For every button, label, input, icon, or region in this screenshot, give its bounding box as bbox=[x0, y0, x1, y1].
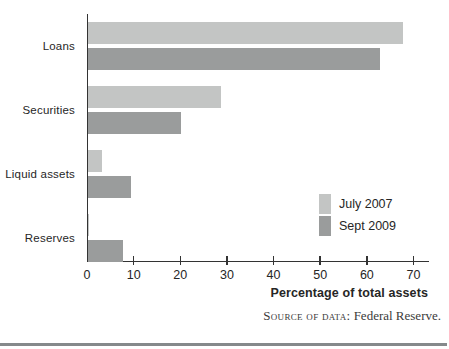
legend-item-sept-2009: Sept 2009 bbox=[319, 216, 396, 236]
bar-sept-2009-loans bbox=[88, 48, 380, 70]
x-tick-label-50: 50 bbox=[305, 268, 335, 282]
category-label-liquid-assets: Liquid assets bbox=[0, 166, 75, 182]
x-tick-mark-20 bbox=[180, 256, 182, 265]
legend-swatch-july-2007 bbox=[319, 194, 331, 214]
x-tick-mark-60 bbox=[366, 256, 368, 265]
legend: July 2007 Sept 2009 bbox=[319, 194, 396, 236]
x-tick-label-70: 70 bbox=[399, 268, 429, 282]
legend-swatch-sept-2009 bbox=[319, 216, 331, 236]
bar-sept-2009-liquid-assets bbox=[88, 176, 131, 198]
bar-july-2007-liquid-assets bbox=[88, 150, 102, 172]
x-tick-label-60: 60 bbox=[352, 268, 382, 282]
source-note-text: Federal Reserve. bbox=[350, 308, 441, 323]
x-tick-mark-40 bbox=[273, 256, 275, 265]
bar-sept-2009-securities bbox=[88, 112, 181, 134]
x-tick-label-40: 40 bbox=[259, 268, 289, 282]
x-tick-mark-70 bbox=[413, 256, 415, 265]
category-label-reserves: Reserves bbox=[0, 230, 75, 246]
bar-july-2007-securities bbox=[88, 86, 221, 108]
x-tick-mark-10 bbox=[133, 256, 135, 265]
x-tick-mark-30 bbox=[226, 256, 228, 265]
source-note-prefix: Source of data: bbox=[263, 308, 350, 323]
bottom-rule bbox=[0, 343, 447, 346]
bar-july-2007-loans bbox=[88, 22, 403, 44]
x-tick-mark-50 bbox=[319, 256, 321, 265]
bar-sept-2009-reserves bbox=[88, 240, 123, 262]
bar-july-2007-reserves bbox=[88, 214, 89, 236]
x-axis-title: Percentage of total assets bbox=[270, 286, 428, 300]
legend-label: July 2007 bbox=[339, 197, 393, 211]
category-label-securities: Securities bbox=[0, 102, 75, 118]
x-tick-label-30: 30 bbox=[212, 268, 242, 282]
legend-item-july-2007: July 2007 bbox=[319, 194, 396, 214]
legend-label: Sept 2009 bbox=[339, 219, 396, 233]
bank-assets-bar-chart-figure: LoansSecuritiesLiquid assetsReserves 010… bbox=[0, 0, 449, 349]
x-tick-label-20: 20 bbox=[165, 268, 195, 282]
category-label-loans: Loans bbox=[0, 38, 75, 54]
x-tick-label-0: 0 bbox=[72, 268, 102, 282]
x-tick-label-10: 10 bbox=[119, 268, 149, 282]
source-note: Source of data: Federal Reserve. bbox=[263, 308, 441, 324]
